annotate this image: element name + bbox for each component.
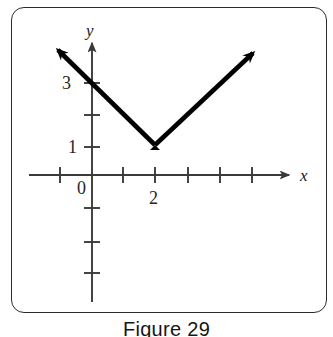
figure-screenshot: y x 3 1 0 2 Figure 29: [0, 0, 333, 337]
curve-left-arm: [58, 50, 155, 145]
y-axis-label: y: [86, 22, 94, 39]
x-axis-label: x: [300, 167, 308, 184]
origin-label: 0: [77, 179, 86, 197]
curve-vertex: [150, 145, 160, 150]
figure-caption: Figure 29: [0, 319, 333, 337]
y-tick-label-1: 1: [68, 138, 77, 156]
coordinate-plane-graph: [0, 0, 333, 337]
x-tick-label-2: 2: [149, 189, 158, 207]
curve-right-arm: [155, 53, 253, 145]
absolute-value-curve: [58, 50, 253, 150]
y-tick-label-3: 3: [62, 74, 71, 92]
x-axis: [29, 167, 289, 183]
